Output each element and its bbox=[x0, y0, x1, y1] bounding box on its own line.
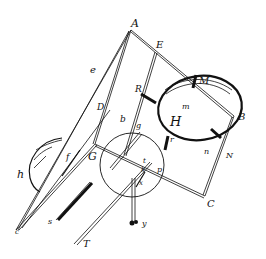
label-g-upper: G bbox=[88, 150, 97, 163]
label-m-upper: M bbox=[198, 75, 210, 86]
rod-s bbox=[56, 182, 92, 220]
left-hemisphere bbox=[29, 138, 62, 192]
label-e-upper: E bbox=[155, 39, 164, 50]
label-c-lower: c bbox=[15, 228, 19, 236]
label-t-upper: T bbox=[83, 238, 91, 249]
apparatus-diagram: A E M B R m H r n N C p D b g t k x y G … bbox=[0, 0, 266, 259]
label-s: s bbox=[48, 217, 52, 226]
label-h-upper: H bbox=[169, 114, 182, 129]
label-e-lower: e bbox=[90, 64, 96, 75]
label-y: y bbox=[141, 219, 147, 228]
label-x: x bbox=[139, 179, 143, 187]
label-g-lower: g bbox=[136, 121, 141, 130]
rod-t bbox=[74, 162, 152, 245]
label-f: f bbox=[65, 152, 71, 162]
label-r-upper: R bbox=[134, 84, 142, 94]
label-c-upper: C bbox=[207, 198, 215, 209]
outer-frame bbox=[93, 30, 234, 198]
label-p: p bbox=[157, 165, 162, 174]
label-d: D bbox=[96, 102, 104, 112]
label-a: A bbox=[130, 17, 139, 30]
label-b: B bbox=[237, 111, 245, 122]
label-n-upper: N bbox=[225, 151, 234, 160]
label-r-lower: r bbox=[170, 135, 175, 144]
label-b-lower: b bbox=[120, 114, 126, 124]
label-n-lower: n bbox=[204, 147, 209, 156]
label-t: t bbox=[143, 157, 146, 165]
label-m-lower: m bbox=[182, 102, 190, 111]
label-h-lower: h bbox=[17, 168, 24, 181]
label-k: k bbox=[141, 166, 145, 174]
wheel-h bbox=[141, 70, 246, 150]
